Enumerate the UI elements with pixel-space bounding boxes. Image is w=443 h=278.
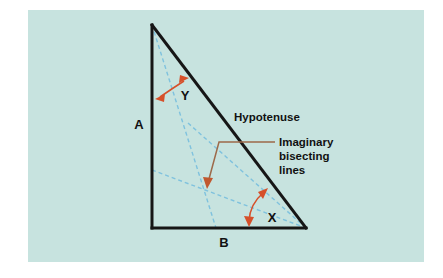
angle-label-x: X: [268, 210, 277, 225]
side-label-b: B: [219, 235, 228, 250]
angle-label-y: Y: [181, 88, 190, 103]
imaginary-label-line-2: bisecting: [279, 150, 329, 162]
illustration-panel: [28, 10, 424, 262]
figure-root: A B Y X Hypotenuse Imaginary bisecting l…: [0, 0, 443, 278]
imaginary-label-line-1: Imaginary: [279, 136, 334, 148]
imaginary-label-line-3: lines: [279, 164, 305, 176]
side-label-a: A: [134, 117, 144, 132]
hypotenuse-label: Hypotenuse: [234, 111, 300, 123]
geometry-diagram: A B Y X Hypotenuse Imaginary bisecting l…: [0, 0, 443, 278]
